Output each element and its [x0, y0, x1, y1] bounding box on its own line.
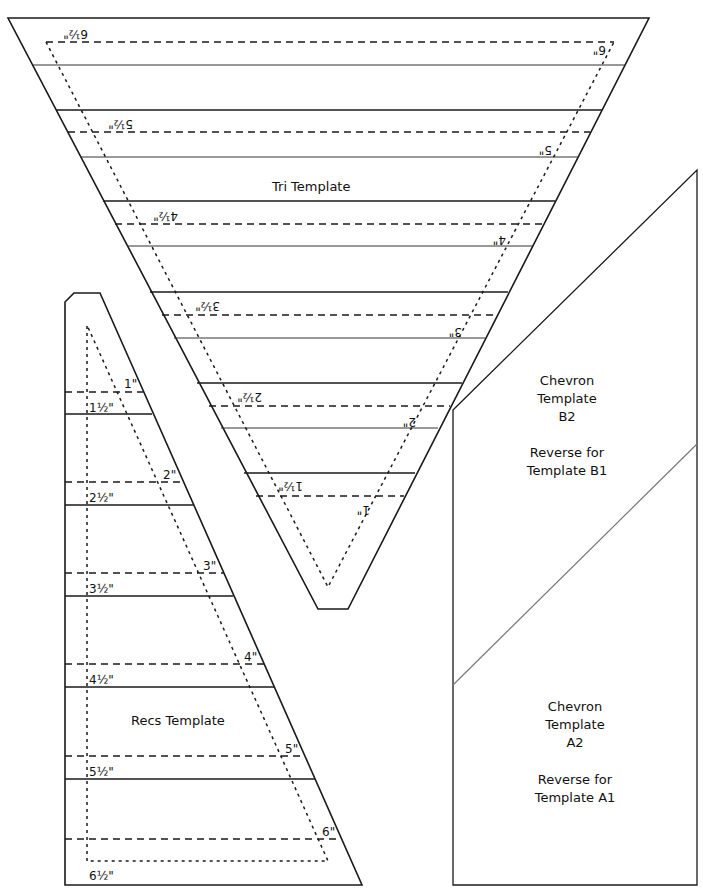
chevron-b-line1: Chevron: [540, 373, 594, 388]
tri-template-measure-labels: 6½" 6" 5½" 5" 4½" 4" 3½" 3" 2½" 2" 1½" 1…: [63, 27, 606, 517]
chevron-a-line1: Chevron: [548, 699, 602, 714]
recs-label-3: 3": [203, 559, 216, 573]
recs-label-5-5: 5½": [89, 765, 114, 779]
recs-template-inner-guide: [87, 325, 328, 861]
recs-label-4-5: 4½": [89, 673, 114, 687]
recs-label-4: 4": [244, 650, 257, 664]
tri-label-2: 2": [403, 415, 416, 429]
recs-template-title: Recs Template: [131, 713, 225, 728]
recs-label-1-5: 1½": [89, 401, 114, 415]
chevron-b-line2: Template: [536, 391, 596, 406]
chevron-a-note2: Template A1: [534, 790, 616, 805]
chevron-b-note2: Template B1: [526, 463, 608, 478]
recs-label-6: 6": [322, 825, 335, 839]
tri-label-6: 6": [593, 43, 606, 57]
recs-label-3-5: 3½": [89, 582, 114, 596]
tri-label-4: 4": [493, 233, 506, 247]
tri-label-1: 1": [357, 503, 370, 517]
tri-label-5-5: 5½": [108, 117, 133, 131]
chevron-b-line3: B2: [558, 409, 575, 424]
chevron-a-line2: Template: [544, 717, 604, 732]
tri-label-3-5: 3½": [195, 299, 220, 313]
chevron-a-label: Chevron Template A2 Reverse for Template…: [534, 699, 616, 805]
quilt-templates-sheet: 6½" 6" 5½" 5" 4½" 4" 3½" 3" 2½" 2" 1½" 1…: [0, 0, 703, 896]
tri-template: 6½" 6" 5½" 5" 4½" 4" 3½" 3" 2½" 2" 1½" 1…: [8, 18, 649, 609]
chevron-b-note1: Reverse for: [530, 445, 605, 460]
recs-template-measure-labels: 1" 1½" 2" 2½" 3" 3½" 4" 4½" 5" 5½" 6" 6½…: [89, 377, 335, 883]
tri-label-3: 3": [449, 325, 462, 339]
chevron-b-label: Chevron Template B2 Reverse for Template…: [526, 373, 608, 478]
tri-label-2-5: 2½": [237, 390, 262, 404]
recs-label-5: 5": [285, 742, 298, 756]
tri-label-5: 5": [539, 143, 552, 157]
recs-label-1: 1": [124, 377, 137, 391]
tri-label-6-5: 6½": [63, 27, 88, 41]
tri-template-outline: [8, 18, 649, 609]
chevron-a-note1: Reverse for: [538, 772, 613, 787]
recs-label-2: 2": [163, 468, 176, 482]
tri-label-4-5: 4½": [153, 209, 178, 223]
tri-label-1-5: 1½": [278, 479, 303, 493]
recs-label-2-5: 2½": [89, 491, 114, 505]
chevron-templates: Chevron Template B2 Reverse for Template…: [453, 170, 697, 885]
recs-label-6-5: 6½": [89, 869, 114, 883]
tri-template-title: Tri Template: [271, 179, 350, 194]
recs-template: 1" 1½" 2" 2½" 3" 3½" 4" 4½" 5" 5½" 6" 6½…: [65, 293, 362, 885]
chevron-a-line3: A2: [566, 735, 583, 750]
chevron-divider: [453, 444, 697, 685]
